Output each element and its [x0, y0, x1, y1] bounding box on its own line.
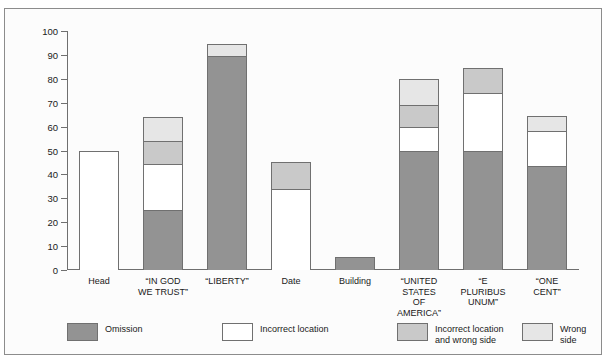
legend-entry[interactable]: Wrong side [522, 323, 587, 345]
bar-stack[interactable] [335, 257, 375, 270]
bar-stack[interactable] [207, 44, 247, 270]
x-axis-category-label: “E PLURIBUS UNUM” [451, 276, 515, 308]
bar-segment[interactable] [399, 151, 439, 271]
y-tick-mark [61, 79, 67, 80]
bar-stack[interactable] [399, 79, 439, 270]
bar-stack[interactable] [79, 151, 119, 271]
page-top-text-sliver: ...... [0, 0, 608, 7]
y-tick-label: 70 [47, 98, 58, 108]
y-tick-label: 50 [47, 146, 58, 156]
chart-legend: OmissionIncorrect locationIncorrect loca… [67, 323, 587, 351]
y-tick-label: 10 [47, 242, 58, 252]
x-axis-category-label: “UNITED STATES OF AMERICA” [387, 276, 451, 318]
bar-segment[interactable] [527, 116, 567, 132]
y-tick-mark [61, 174, 67, 175]
bar-stack[interactable] [463, 68, 503, 270]
y-tick-mark [61, 222, 67, 223]
y-tick-mark [61, 127, 67, 128]
legend-entry[interactable]: Incorrect location and wrong side [397, 323, 504, 345]
bar-segment[interactable] [207, 44, 247, 56]
y-tick-mark [61, 55, 67, 56]
y-tick-label: 30 [47, 194, 58, 204]
bar-segment[interactable] [143, 117, 183, 141]
y-tick-label: 20 [47, 218, 58, 228]
bar-segment[interactable] [463, 93, 503, 150]
figure-frame: 0102030405060708090100 Head“IN GOD WE TR… [4, 8, 602, 355]
bar-stack[interactable] [271, 162, 311, 270]
y-axis-line [67, 31, 68, 270]
legend-label: Incorrect location and wrong side [435, 323, 504, 345]
legend-color-swatch [522, 323, 553, 341]
y-tick-label: 80 [47, 74, 58, 84]
plot-area: 0102030405060708090100 Head“IN GOD WE TR… [67, 31, 579, 270]
legend-label: Omission [105, 323, 143, 335]
bar-segment[interactable] [335, 257, 375, 270]
bar-segment[interactable] [399, 105, 439, 127]
bar-segment[interactable] [399, 127, 439, 151]
bar-segment[interactable] [527, 131, 567, 166]
y-tick-label: 90 [47, 50, 58, 60]
x-axis-category-label: “LIBERTY” [195, 276, 259, 287]
y-tick-label: 40 [47, 170, 58, 180]
y-tick-mark [61, 103, 67, 104]
legend-color-swatch [222, 323, 253, 341]
x-axis-category-label: Building [323, 276, 387, 287]
y-tick-mark [61, 246, 67, 247]
x-axis-category-label: Head [67, 276, 131, 287]
bar-segment[interactable] [143, 164, 183, 211]
y-tick-mark [61, 270, 67, 271]
bar-segment[interactable] [143, 210, 183, 270]
bar-stack[interactable] [527, 116, 567, 270]
bar-segment[interactable] [527, 166, 567, 270]
bar-segment[interactable] [207, 56, 247, 270]
y-tick-mark [61, 31, 67, 32]
bar-segment[interactable] [463, 151, 503, 271]
y-tick-label: 60 [47, 122, 58, 132]
x-axis-category-label: “IN GOD WE TRUST” [131, 276, 195, 297]
legend-color-swatch [397, 323, 428, 341]
x-axis-category-label: Date [259, 276, 323, 287]
x-axis-category-label: “ONE CENT” [515, 276, 579, 297]
bar-segment[interactable] [463, 68, 503, 93]
bar-segment[interactable] [271, 162, 311, 188]
bar-segment[interactable] [143, 141, 183, 164]
bar-stack[interactable] [143, 117, 183, 270]
y-tick-label: 100 [42, 27, 58, 37]
bar-segment[interactable] [79, 151, 119, 271]
bar-segment[interactable] [399, 79, 439, 105]
y-tick-mark [61, 198, 67, 199]
legend-label: Wrong side [560, 323, 587, 345]
y-tick-label: 0 [53, 266, 58, 276]
bar-segment[interactable] [271, 189, 311, 270]
legend-label: Incorrect location [260, 323, 329, 335]
legend-entry[interactable]: Omission [67, 323, 143, 341]
cut-off-caption-text: ...... [24, 0, 40, 2]
y-tick-mark [61, 151, 67, 152]
legend-color-swatch [67, 323, 98, 341]
legend-entry[interactable]: Incorrect location [222, 323, 329, 341]
